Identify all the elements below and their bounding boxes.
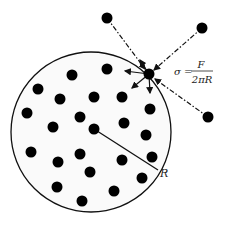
internal-particle: [117, 155, 128, 166]
external-particle: [197, 23, 208, 34]
internal-particle: [147, 152, 158, 163]
internal-particle: [55, 94, 66, 105]
surface-particle: [144, 69, 155, 80]
internal-particle: [119, 118, 130, 129]
internal-particle: [89, 92, 100, 103]
surface-tension-formula: σ = F 2πR: [174, 59, 213, 85]
internal-particle: [145, 104, 156, 115]
formula-denominator: 2πR: [191, 74, 213, 85]
internal-particle: [26, 147, 37, 158]
radius-label: R: [159, 167, 168, 180]
internal-particle: [117, 92, 128, 103]
internal-particle: [109, 186, 120, 197]
internal-particle: [75, 112, 86, 123]
internal-particle: [67, 70, 78, 81]
internal-particle: [137, 173, 148, 184]
external-particle: [203, 112, 214, 123]
internal-particle: [75, 149, 86, 160]
internal-particle: [22, 108, 33, 119]
formula-lhs: σ =: [174, 66, 192, 77]
external-particle: [102, 13, 113, 24]
internal-particle: [102, 64, 113, 75]
internal-particle: [89, 124, 100, 135]
internal-particle: [141, 130, 152, 141]
internal-particle: [85, 167, 96, 178]
internal-particle: [48, 122, 59, 133]
internal-particle: [52, 182, 63, 193]
internal-particle: [53, 157, 64, 168]
formula-numerator: F: [197, 59, 206, 70]
internal-particle: [77, 196, 88, 207]
surface-tension-diagram: R σ = F 2πR: [0, 0, 231, 227]
internal-particle: [33, 84, 44, 95]
